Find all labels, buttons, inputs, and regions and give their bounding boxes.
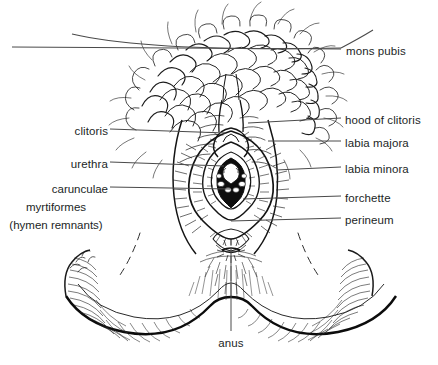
label-anus: anus <box>209 334 253 352</box>
label-carunculae-line2: myrtiformes <box>4 198 108 216</box>
label-carunculae-myrtiformes: carunculae myrtiformes (hymen remnants) <box>4 180 108 234</box>
label-forchette: forchette <box>345 189 391 207</box>
label-carunculae-line3: (hymen remnants) <box>4 216 108 234</box>
label-labia-minora: labia minora <box>345 160 409 178</box>
label-mons-pubis: mons pubis <box>346 42 406 60</box>
label-clitoris: clitoris <box>4 122 108 140</box>
label-labia-majora: labia majora <box>345 134 409 152</box>
label-hood-of-clitoris: hood of clitoris <box>345 111 421 129</box>
label-carunculae-line1: carunculae <box>52 183 108 195</box>
label-urethra: urethra <box>4 155 108 173</box>
label-perineum: perineum <box>345 211 394 229</box>
